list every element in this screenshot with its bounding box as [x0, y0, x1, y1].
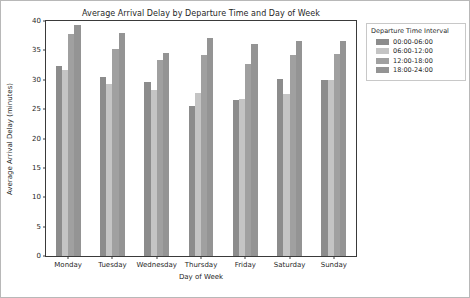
x-axis-tick-mark — [245, 256, 246, 259]
legend-item[interactable]: 00:00-06:00 — [376, 38, 461, 46]
bar — [296, 41, 302, 256]
y-axis-tick-mark — [43, 79, 46, 80]
legend-swatch-icon — [376, 58, 389, 64]
bar — [119, 33, 125, 256]
bar — [74, 25, 80, 256]
y-axis-tick-mark — [43, 197, 46, 198]
x-axis-tick-mark — [201, 256, 202, 259]
y-axis-label: Average Arrival Delay (minutes) — [4, 20, 16, 257]
legend-swatch-icon — [376, 67, 389, 73]
x-axis-tick-label: Sunday — [321, 261, 347, 269]
y-axis-tick-mark — [43, 167, 46, 168]
legend-swatch-icon — [376, 39, 389, 45]
x-axis-tick-mark — [333, 256, 334, 259]
x-axis-tick-label: Saturday — [274, 261, 306, 269]
x-axis-tick-label: Tuesday — [98, 261, 126, 269]
bar — [163, 53, 169, 256]
x-axis-tick-mark — [68, 256, 69, 259]
y-axis-label-text: Average Arrival Delay (minutes) — [6, 82, 14, 194]
x-axis-tick-mark — [289, 256, 290, 259]
y-axis-tick-mark — [43, 226, 46, 227]
plot-area: 0510152025303540MondayTuesdayWednesdayTh… — [46, 21, 356, 256]
x-axis-tick-label: Monday — [54, 261, 82, 269]
legend-entries: 00:00-06:0006:00-12:0012:00-18:0018:00-2… — [371, 38, 461, 75]
legend-swatch-icon — [376, 48, 389, 54]
x-axis-label: Day of Week — [45, 273, 357, 281]
legend-item[interactable]: 18:00-24:00 — [376, 66, 461, 74]
legend-item[interactable]: 06:00-12:00 — [376, 47, 461, 55]
x-axis-tick-label: Wednesday — [136, 261, 177, 269]
y-axis-tick-mark — [43, 21, 46, 22]
chart-title: Average Arrival Delay by Departure Time … — [45, 9, 357, 18]
legend: Departure Time Interval 00:00-06:0006:00… — [366, 23, 466, 81]
legend-title: Departure Time Interval — [371, 27, 461, 35]
legend-item-label: 12:00-18:00 — [393, 57, 433, 65]
x-axis-tick-label: Friday — [235, 261, 256, 269]
x-axis-tick-label: Thursday — [185, 261, 218, 269]
legend-item[interactable]: 12:00-18:00 — [376, 57, 461, 65]
y-axis-tick-mark — [43, 109, 46, 110]
y-axis-tick-mark — [43, 138, 46, 139]
legend-item-label: 06:00-12:00 — [393, 47, 433, 55]
bar — [207, 38, 213, 256]
bar — [251, 44, 257, 256]
x-axis-tick-mark — [112, 256, 113, 259]
y-axis-tick-mark — [43, 256, 46, 257]
chart-figure: Average Arrival Delay by Departure Time … — [0, 0, 470, 298]
y-axis-tick-mark — [43, 50, 46, 51]
legend-item-label: 00:00-06:00 — [393, 38, 433, 46]
bar — [340, 41, 346, 256]
legend-item-label: 18:00-24:00 — [393, 66, 433, 74]
x-axis-tick-mark — [156, 256, 157, 259]
